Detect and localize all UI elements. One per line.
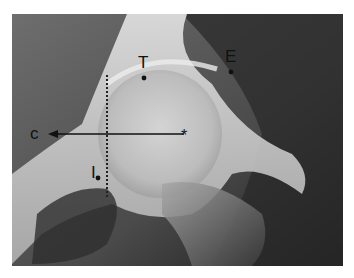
- point-e-dot: [229, 70, 234, 75]
- point-i-dot: [96, 176, 101, 181]
- label-t: T: [138, 54, 148, 71]
- label-e: E: [225, 48, 236, 65]
- arrowhead-icon: [48, 130, 58, 138]
- center-asterisk: *: [181, 128, 187, 144]
- annotation-overlay: [12, 14, 343, 266]
- label-c: c: [30, 125, 39, 142]
- label-i: I: [91, 164, 96, 181]
- point-t-dot: [142, 76, 147, 81]
- radiograph-image: T E c I *: [12, 14, 343, 266]
